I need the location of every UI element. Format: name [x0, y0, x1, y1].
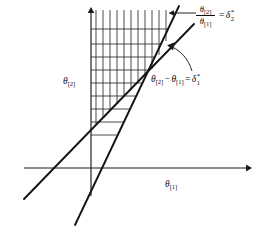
diagram-canvas	[0, 0, 263, 228]
delta2-symbol: δ	[226, 11, 230, 21]
delta2-equation-label: θ[2] θ[1] = δ*2	[196, 4, 234, 28]
delta1-symbol: δ	[192, 74, 196, 84]
delta1-pointer-curve	[170, 46, 192, 71]
x-axis-subscript: [1]	[170, 183, 177, 190]
denominator-subscript: [1]	[204, 20, 211, 27]
fraction-denominator: θ[1]	[199, 16, 213, 27]
delta2-marks: *2	[231, 10, 235, 21]
annotation-pointers	[167, 10, 196, 71]
delta2-pointer-arrow-icon	[169, 10, 175, 16]
x-axis-arrow-icon	[246, 165, 252, 172]
delta1-subscript: 1	[197, 80, 200, 85]
delta2-subscript: 2	[231, 16, 234, 21]
constraint-lines	[24, 6, 194, 225]
y-axis-subscript: [2]	[68, 80, 75, 87]
y-axis-arrow-icon	[88, 7, 95, 13]
fraction-numerator: θ[2]	[199, 4, 213, 15]
delta2-rhs: = δ*2	[218, 10, 235, 21]
figure-container: θ[2] θ[1] θ[2] θ[1] = δ*2 θ[2]−θ[1]=δ*1	[0, 0, 263, 228]
hatched-region	[91, 10, 168, 135]
delta1-equals: =	[183, 74, 191, 84]
delta1-equation-label: θ[2]−θ[1]=δ*1	[151, 74, 200, 85]
y-axis-label: θ[2]	[63, 77, 75, 87]
numerator-subscript: [2]	[204, 7, 211, 14]
delta2-equals: =	[218, 11, 226, 21]
x-axis-label: θ[1]	[165, 180, 177, 190]
delta1-marks: *1	[197, 74, 201, 85]
theta-ratio-fraction: θ[2] θ[1]	[196, 4, 215, 28]
delta1-theta-a-subscript: [2]	[156, 78, 163, 85]
difference-constraint-line	[24, 24, 194, 199]
